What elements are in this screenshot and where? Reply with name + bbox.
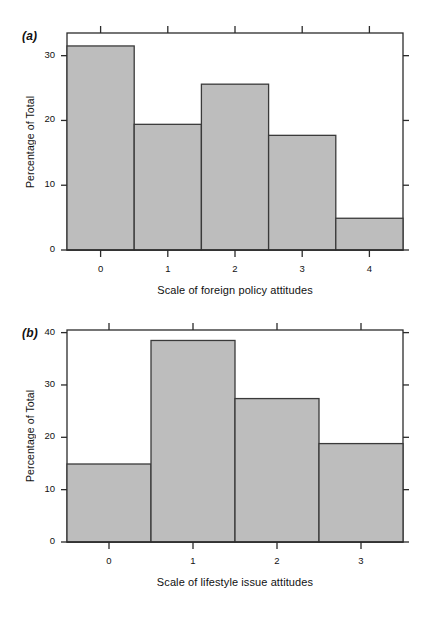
x-tick-label: 0 [89, 555, 129, 566]
x-tick-label: 4 [349, 263, 389, 274]
bar-3 [319, 444, 403, 542]
bar-0 [67, 464, 151, 542]
y-tick-label: 0 [21, 535, 55, 546]
y-tick-label: 20 [21, 113, 55, 124]
bar-3 [269, 135, 336, 250]
x-tick-label: 2 [257, 555, 297, 566]
bar-4 [336, 218, 403, 250]
bar-1 [151, 340, 235, 542]
x-tick-label: 2 [215, 263, 255, 274]
y-tick-label: 30 [21, 378, 55, 389]
y-tick-label: 10 [21, 178, 55, 189]
y-tick-label: 20 [21, 430, 55, 441]
x-tick-label: 1 [173, 555, 213, 566]
bar-2 [201, 84, 268, 250]
x-tick-label: 3 [341, 555, 381, 566]
bar-2 [235, 399, 319, 542]
y-tick-label: 40 [21, 326, 55, 337]
chart-panel-a: (a) Percentage of Total Scale of foreign… [0, 0, 430, 312]
bar-0 [67, 46, 134, 250]
chart-panel-b: (b) Percentage of Total Scale of lifesty… [0, 312, 430, 624]
x-tick-label: 3 [282, 263, 322, 274]
y-tick-label: 10 [21, 483, 55, 494]
bar-1 [134, 124, 201, 250]
y-tick-label: 0 [21, 243, 55, 254]
x-tick-label: 0 [81, 263, 121, 274]
plot-area-b [0, 312, 430, 624]
x-tick-label: 1 [148, 263, 188, 274]
y-tick-label: 30 [21, 49, 55, 60]
